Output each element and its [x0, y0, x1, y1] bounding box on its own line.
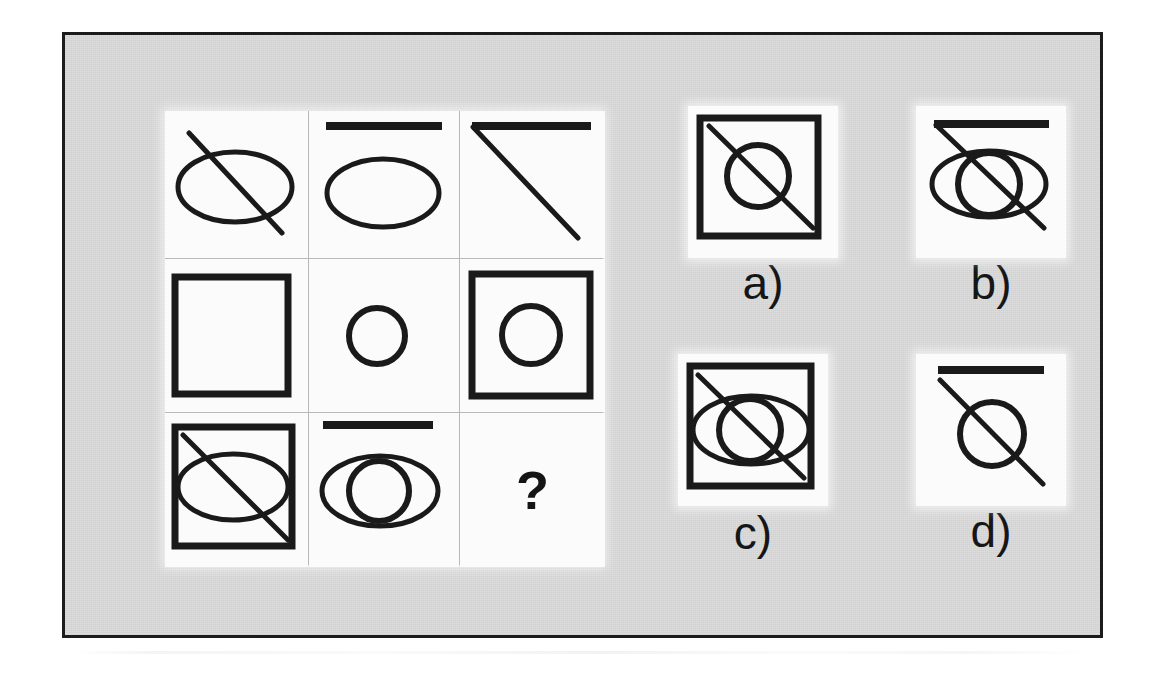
option-b-box[interactable]: [916, 106, 1066, 258]
option-c-label: c): [678, 510, 828, 557]
option-c-box[interactable]: [678, 354, 828, 506]
option-a-label: a): [688, 260, 838, 307]
bar-ellipse-circle-diagonal-icon: [916, 106, 1066, 258]
matrix-cell-r2c3[interactable]: [460, 259, 605, 412]
option-a[interactable]: a): [688, 106, 838, 307]
matrix-cell-r3c3[interactable]: ?: [460, 413, 605, 567]
option-c[interactable]: c): [678, 354, 828, 557]
bar-circle-diagonal-icon: [916, 354, 1066, 506]
option-b[interactable]: b): [916, 106, 1066, 307]
circle-icon: [309, 259, 459, 412]
matrix-cell-r3c1[interactable]: [165, 413, 308, 567]
option-b-label: b): [916, 260, 1066, 307]
puzzle-panel: ? a) b): [62, 32, 1103, 638]
matrix-cell-r1c1[interactable]: [165, 111, 308, 258]
option-a-box[interactable]: [688, 106, 838, 258]
bar-with-ellipse-icon: [309, 111, 459, 258]
option-d-label: d): [916, 508, 1066, 555]
scan-artifact: [70, 651, 1090, 654]
ellipse-with-diagonal-icon: [165, 111, 308, 258]
option-d-box[interactable]: [916, 354, 1066, 506]
matrix-cell-r1c3[interactable]: [460, 111, 605, 258]
matrix-cell-r1c2[interactable]: [309, 111, 459, 258]
square-ellipse-diagonal-icon: [165, 413, 308, 567]
square-icon: [165, 259, 308, 412]
matrix-cell-r3c2[interactable]: [309, 413, 459, 567]
matrix-grid: ?: [165, 111, 603, 565]
matrix-cell-r2c1[interactable]: [165, 259, 308, 412]
bar-with-diagonal-icon: [460, 111, 605, 258]
square-ellipse-circle-diagonal-icon: [678, 354, 828, 506]
square-circle-diagonal-icon: [688, 106, 838, 258]
question-mark: ?: [460, 413, 605, 567]
matrix-cell-r2c2[interactable]: [309, 259, 459, 412]
option-d[interactable]: d): [916, 354, 1066, 555]
bar-ellipse-circle-icon: [309, 413, 459, 567]
square-with-circle-icon: [460, 259, 605, 412]
